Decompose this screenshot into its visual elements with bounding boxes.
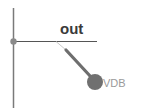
schematic-drawing	[0, 0, 146, 111]
probe-lead	[56, 42, 66, 51]
schematic-canvas[interactable]: out VDB	[0, 0, 146, 111]
net-label-out[interactable]: out	[60, 21, 83, 37]
junction-dot	[10, 38, 16, 44]
probe-label-vdb: VDB	[103, 77, 126, 89]
probe-body[interactable]	[66, 50, 91, 77]
probe-head-icon[interactable]	[87, 74, 103, 90]
